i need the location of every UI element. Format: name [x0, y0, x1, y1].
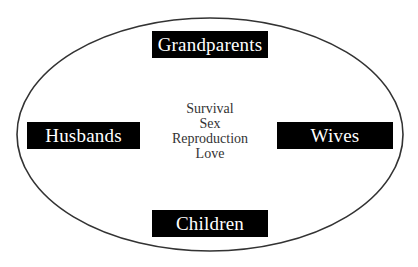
node-label: Wives — [311, 126, 360, 145]
node-grandparents: Grandparents — [152, 31, 268, 58]
family-relationships-diagram: Grandparents Husbands Wives Children Sur… — [0, 0, 418, 267]
center-concepts-list: Survival Sex Reproduction Love — [160, 101, 260, 161]
center-item-survival: Survival — [160, 101, 260, 116]
node-label: Husbands — [45, 126, 122, 145]
center-item-love: Love — [160, 146, 260, 161]
node-label: Children — [176, 214, 244, 233]
node-wives: Wives — [277, 122, 393, 149]
node-label: Grandparents — [158, 35, 263, 54]
center-item-reproduction: Reproduction — [160, 131, 260, 146]
center-item-sex: Sex — [160, 116, 260, 131]
node-husbands: Husbands — [27, 122, 140, 149]
node-children: Children — [152, 210, 268, 237]
